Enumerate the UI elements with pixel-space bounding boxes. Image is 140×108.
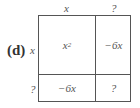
cell-text: −6x — [105, 39, 123, 51]
cell-row1-col0: −6x — [39, 75, 95, 101]
cell-text: ? — [111, 82, 117, 94]
cell-base: x — [63, 39, 68, 51]
part-label: (d) — [7, 43, 25, 58]
column-header-0: x — [64, 3, 69, 14]
cell-row0-col1: −6x — [96, 16, 131, 74]
column-header-1: ? — [111, 3, 117, 14]
cell-row0-col0: x2 — [39, 16, 95, 74]
row-header-1: ? — [30, 84, 36, 95]
cell-row1-col1: ? — [96, 75, 131, 101]
cell-text: −6x — [58, 82, 76, 94]
area-model-grid: x2 −6x −6x ? — [38, 15, 131, 102]
row-header-0: x — [30, 45, 35, 56]
